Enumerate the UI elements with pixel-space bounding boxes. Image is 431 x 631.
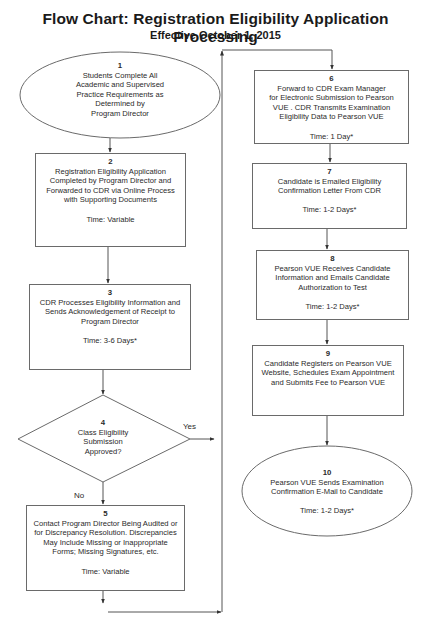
step-number: 1 [118, 61, 122, 71]
step-text-line: Eligibility Data to Pearson VUE [279, 112, 383, 122]
step-9: 9 Candidate Registers on Pearson VUE Web… [252, 345, 404, 416]
step-text-line: Academic and Supervised [76, 80, 164, 90]
step-text-line: Confirmation E-Mail to Candidate [271, 487, 383, 497]
step-text-line: Candidate is Emailed Eligibility [278, 177, 381, 187]
step-text-line: Approved? [85, 447, 122, 457]
step-text-line: Forms; Missing Signatures, etc. [52, 547, 158, 557]
step-text-line: and Submits Fee to Pearson VUE [271, 378, 385, 388]
step-time: Time: 1-2 Days* [302, 205, 356, 215]
step-text-line: for Discrepancy Resolution. Discrepancie… [34, 528, 177, 538]
step-text-line: Determined by [95, 99, 144, 109]
step-6: 6 Forward to CDR Exam Manager for Electr… [254, 70, 409, 144]
step-text-line: Program Director [91, 109, 149, 119]
step-text-line: Information and Emails Candidate [275, 273, 389, 283]
step-text-line: Forwarded to CDR via Online Process [46, 186, 175, 196]
step-text-line: Website, Schedules Exam Appointment [262, 368, 395, 378]
step-text-line: Confirmation Letter From CDR [278, 186, 381, 196]
step-number: 9 [326, 349, 330, 359]
decision-no-label: No [74, 491, 84, 500]
step-text-line: Completed by Program Director and [50, 176, 172, 186]
step-text-line: Contact Program Director Being Audited o… [34, 519, 178, 529]
step-number: 10 [323, 468, 332, 478]
step-8: 8 Pearson VUE Receives Candidate Informa… [256, 250, 409, 320]
step-text-line: Students Complete All [83, 71, 158, 81]
step-text-line: CDR Processes Eligibility Information an… [40, 298, 181, 308]
step-5: 5 Contact Program Director Being Audited… [26, 505, 185, 591]
step-text-line: Candidate Registers on Pearson VUE [264, 359, 391, 369]
step-7: 7 Candidate is Emailed Eligibility Confi… [252, 163, 407, 229]
step-text-line: Pearson VUE Sends Examination [270, 478, 384, 488]
step-text-line: for Electronic Submission to Pearson [269, 93, 394, 103]
step-text-line: Practice Requirements as [77, 90, 164, 100]
step-text-line: with Supporting Documents [64, 195, 157, 205]
step-4: 4 Class Eligibility Submission Approved? [53, 418, 153, 456]
step-text-line: Submission [83, 437, 122, 447]
step-time: Time: Variable [86, 215, 134, 225]
step-text-line: May Include Missing or Inappropriate [43, 538, 168, 548]
step-text-line: Registration Eligibility Application [55, 167, 166, 177]
step-3: 3 CDR Processes Eligibility Information … [29, 284, 191, 370]
step-number: 8 [330, 254, 334, 264]
step-text-line: VUE . CDR Transmits Examination [273, 103, 390, 113]
step-time: Time: 1-2 Days* [300, 506, 354, 516]
decision-yes-label: Yes [183, 422, 196, 431]
step-text-line: Program Director [81, 317, 139, 327]
step-time: Time: 1 Day* [310, 132, 354, 142]
step-number: 4 [101, 418, 105, 428]
step-10: 10 Pearson VUE Sends Examination Confirm… [257, 468, 397, 516]
step-number: 5 [103, 509, 107, 519]
step-number: 6 [329, 74, 333, 84]
step-1: 1 Students Complete All Academic and Sup… [30, 61, 210, 119]
step-text-line: Authorization to Test [298, 283, 367, 293]
step-number: 7 [327, 167, 331, 177]
step-time: Time: 3-6 Days* [83, 336, 137, 346]
step-number: 3 [108, 288, 112, 298]
step-number: 2 [108, 157, 112, 167]
step-text-line: Pearson VUE Receives Candidate [274, 264, 390, 274]
step-2: 2 Registration Eligibility Application C… [35, 153, 186, 247]
step-text-line: Class Eligibility [78, 428, 129, 438]
step-time: Time: 1-2 Days* [305, 302, 359, 312]
step-text-line: Sends Acknowledgement of Receipt to [45, 307, 175, 317]
step-time: Time: Variable [81, 567, 129, 577]
step-text-line: Forward to CDR Exam Manager [277, 84, 385, 94]
